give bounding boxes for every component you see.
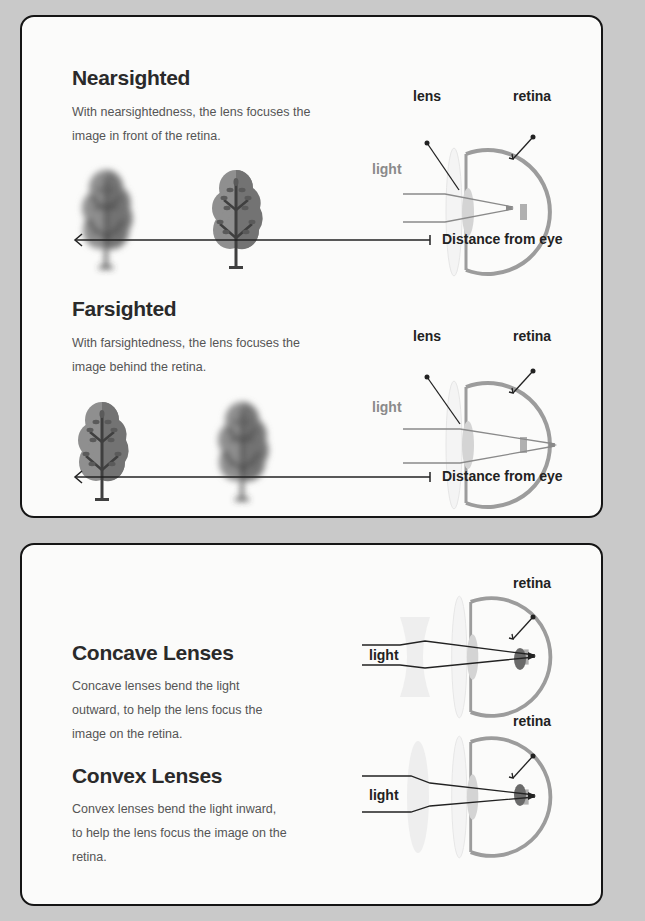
convex-lens-diagram [0, 0, 645, 921]
